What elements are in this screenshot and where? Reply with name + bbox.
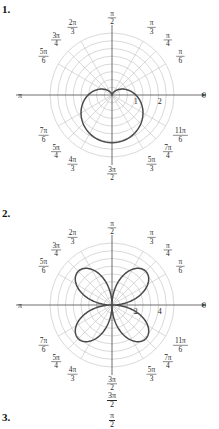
stray-pi2-denominator: 2: [109, 421, 115, 429]
angle-label: 7π4: [163, 353, 173, 370]
angle-label-denominator: 3: [150, 27, 154, 36]
angle-label: π6: [176, 47, 184, 64]
angle-label-denominator: 6: [179, 135, 183, 144]
angle-label-denominator: 6: [179, 266, 183, 275]
angle-label: π3: [147, 228, 155, 245]
angle-label: π3: [147, 18, 155, 35]
angle-label-denominator: 4: [166, 39, 170, 48]
angle-label-denominator: 4: [54, 361, 58, 370]
angle-label: 0: [202, 301, 206, 310]
angle-label: 3π4: [51, 31, 61, 48]
polar-plot-figure-2: 240π6π4π3π22π33π45π6π7π65π44π33π25π37π41…: [0, 214, 219, 410]
angle-label-text: π: [18, 91, 22, 100]
angle-label: 7π4: [163, 143, 173, 160]
angle-label-denominator: 3: [71, 374, 75, 383]
angle-label: 7π6: [39, 336, 49, 353]
angle-label: π2: [108, 219, 116, 236]
angle-label-denominator: 6: [42, 266, 46, 275]
angle-label: 5π4: [51, 143, 61, 160]
radial-tick-label: 1: [134, 97, 138, 106]
angle-label-denominator: 3: [71, 164, 75, 173]
angle-label-denominator: 4: [54, 249, 58, 258]
textbook-page: 1. 120π6π4π3π22π33π45π6π7π65π44π33π25π37…: [0, 0, 219, 429]
stray-angle-label-3pi-over-2: 3π 2: [98, 392, 126, 409]
angle-label-denominator: 3: [150, 374, 154, 383]
angle-label: π6: [176, 257, 184, 274]
angle-label-denominator: 6: [179, 345, 183, 354]
angle-label-denominator: 4: [166, 151, 170, 160]
angle-label-denominator: 4: [54, 151, 58, 160]
angle-label-denominator: 3: [71, 237, 75, 246]
angle-label-denominator: 3: [150, 237, 154, 246]
angle-label: π2: [108, 9, 116, 26]
angle-label-text: π: [18, 301, 22, 310]
radial-tick-labels: 24: [134, 307, 162, 316]
angle-label: 5π3: [147, 155, 157, 172]
stray-angle-label-pi-over-2: π 2: [98, 412, 126, 429]
angle-label: 5π3: [147, 365, 157, 382]
angle-label: 4π3: [68, 155, 78, 172]
problem-number-3: 3.: [2, 412, 10, 423]
page-top-bleed-text: [104, 0, 219, 8]
angle-label-denominator: 4: [54, 39, 58, 48]
angle-label-denominator: 6: [42, 345, 46, 354]
angle-label-denominator: 4: [166, 361, 170, 370]
angle-label: π4: [164, 241, 172, 258]
angle-label: 3π4: [51, 241, 61, 258]
stray-3pi2-denominator: 2: [107, 401, 117, 409]
angle-label-denominator: 2: [110, 173, 114, 182]
angle-label: 0: [202, 91, 206, 100]
angle-label-denominator: 3: [71, 27, 75, 36]
angle-label: 2π3: [68, 18, 78, 35]
angle-label-denominator: 2: [110, 17, 114, 26]
polar-chart: 120π6π4π3π22π33π45π6π7π65π44π33π25π37π41…: [0, 8, 219, 204]
polar-chart: 240π6π4π3π22π33π45π6π7π65π44π33π25π37π41…: [0, 214, 219, 410]
angle-label: 5π4: [51, 353, 61, 370]
angle-label: π: [18, 91, 22, 100]
angle-label-denominator: 2: [110, 227, 114, 236]
angle-label-denominator: 6: [42, 56, 46, 65]
angle-label-text: 0: [202, 301, 206, 310]
angle-label: 3π2: [107, 375, 117, 392]
polar-plot-figure-1: 120π6π4π3π22π33π45π6π7π65π44π33π25π37π41…: [0, 8, 219, 204]
angle-label: 5π6: [39, 47, 49, 64]
angle-label-denominator: 3: [150, 164, 154, 173]
angle-label: 2π3: [68, 228, 78, 245]
angle-label: π4: [164, 31, 172, 48]
radial-tick-label: 2: [158, 97, 162, 106]
angle-label: 3π2: [107, 165, 117, 182]
angle-label-denominator: 4: [166, 249, 170, 258]
angle-label: π: [18, 301, 22, 310]
radial-tick-label: 4: [158, 307, 162, 316]
angle-label-text: 0: [202, 91, 206, 100]
angle-label: 11π6: [173, 126, 188, 143]
angle-label: 7π6: [39, 126, 49, 143]
angle-label: 4π3: [68, 365, 78, 382]
angle-label-denominator: 6: [42, 135, 46, 144]
angle-label: 11π6: [173, 336, 188, 353]
angle-label: 5π6: [39, 257, 49, 274]
angle-label-denominator: 6: [179, 56, 183, 65]
